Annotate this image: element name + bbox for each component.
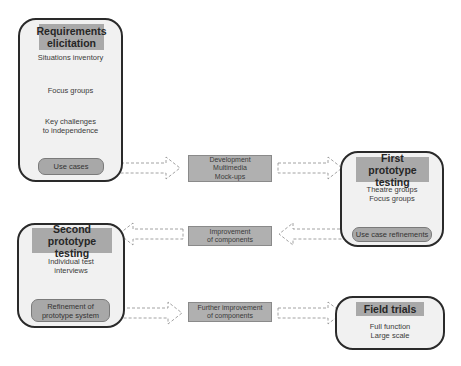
dashed-right-arrow-icon	[278, 157, 342, 179]
step-label: Focus groups	[20, 86, 121, 95]
phase-title: First prototype testing	[356, 157, 429, 182]
step-label: Theatre groups Focus groups	[342, 185, 442, 203]
phase-title: Field trials	[356, 302, 424, 316]
output-refinement-of-prototype-system[interactable]: Refinement of prototype system	[31, 299, 110, 322]
dashed-left-arrow-icon	[279, 223, 345, 245]
phase-title: Requirements elicitation	[39, 24, 104, 50]
dashed-right-arrow-icon	[117, 302, 182, 324]
dashed-left-arrow-icon	[119, 223, 183, 245]
transition-development[interactable]: Development Multimedia Mock-ups	[188, 155, 272, 182]
step-label: Individual test interviews	[19, 257, 123, 275]
step-label: Full function Large scale	[337, 322, 443, 340]
transition-further-improvement[interactable]: Further improvement of components	[188, 302, 272, 322]
step-label: Key challenges to independence	[20, 117, 121, 135]
step-label: Situations inventory	[20, 53, 121, 62]
transition-improvement[interactable]: Improvement of components	[188, 226, 272, 246]
output-use-cases[interactable]: Use cases	[38, 158, 104, 175]
dashed-right-arrow-icon	[278, 302, 342, 324]
output-use-case-refinements[interactable]: Use case refinements	[352, 227, 432, 242]
phase-title: Second prototype testing	[32, 228, 112, 253]
dashed-right-arrow-icon	[116, 157, 180, 179]
